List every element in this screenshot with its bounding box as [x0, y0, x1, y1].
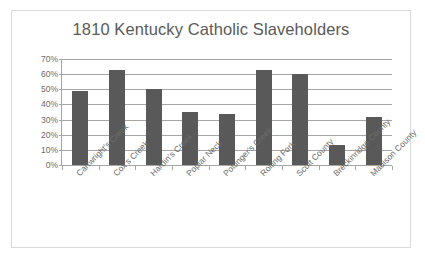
bar: [72, 91, 88, 165]
y-axis-tick-label: 30%: [24, 115, 58, 124]
x-axis-tick-mark: [209, 166, 210, 170]
x-axis-tick-mark: [355, 166, 356, 170]
bar: [256, 70, 272, 165]
bar: [219, 114, 235, 165]
x-axis-tick-mark: [245, 166, 246, 170]
x-axis-tick-mark: [62, 166, 63, 170]
x-axis-category-labels: Cartwright's CreekCox's CreekHardin's Cr…: [62, 171, 392, 251]
x-axis-tick-mark: [99, 166, 100, 170]
x-axis-tick-mark: [392, 166, 393, 170]
x-axis-tick-mark: [319, 166, 320, 170]
y-axis-tick-label: 70%: [24, 55, 58, 64]
chart-frame: 1810 Kentucky Catholic Slaveholders 0%10…: [11, 10, 411, 248]
chart-title: 1810 Kentucky Catholic Slaveholders: [12, 20, 410, 39]
y-axis-tick-label: 60%: [24, 70, 58, 79]
x-axis-tick-mark: [135, 166, 136, 170]
bar: [146, 89, 162, 165]
y-axis-tick-label: 20%: [24, 130, 58, 139]
plot-area: [62, 59, 392, 165]
y-axis-tick-labels: 0%10%20%30%40%50%60%70%: [22, 59, 58, 165]
bar: [292, 74, 308, 165]
bar-slot: [62, 59, 99, 165]
y-axis-tick-label: 40%: [24, 100, 58, 109]
y-axis-tick-label: 10%: [24, 146, 58, 155]
x-axis-tick-mark: [282, 166, 283, 170]
y-axis-tick-label: 0%: [24, 161, 58, 170]
y-axis-tick-label: 50%: [24, 85, 58, 94]
x-axis-tick-mark: [172, 166, 173, 170]
bar: [109, 70, 125, 165]
